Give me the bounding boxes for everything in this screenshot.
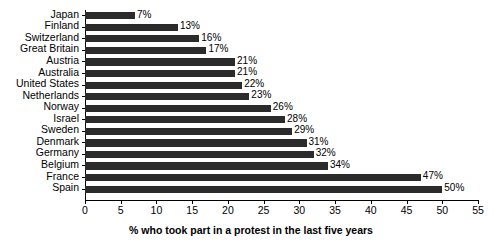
bar-value-label: 29%: [294, 124, 314, 136]
bar: [85, 186, 442, 193]
bar: [85, 24, 178, 31]
bar-value-label: 47%: [423, 170, 443, 182]
bar: [85, 70, 235, 77]
bar: [85, 58, 235, 65]
category-label: Norway: [43, 101, 79, 113]
category-label: Spain: [52, 182, 79, 194]
bar: [85, 93, 249, 100]
bar-value-label: 31%: [309, 136, 329, 148]
bar: [85, 35, 199, 42]
bar-value-label: 28%: [287, 113, 307, 125]
x-axis-tick-label: 30: [284, 204, 314, 217]
x-axis-tick-label: 10: [141, 204, 171, 217]
bar: [85, 116, 285, 123]
x-axis-tick-label: 40: [356, 204, 386, 217]
bar: [85, 139, 307, 146]
chart-row: Belgium34%: [85, 160, 478, 172]
chart-row: France47%: [85, 172, 478, 184]
bar: [85, 47, 206, 54]
chart-row: Germany32%: [85, 149, 478, 161]
category-label: Austria: [46, 55, 79, 67]
bar: [85, 128, 292, 135]
x-axis-tick-label: 35: [320, 204, 350, 217]
chart-row: Israel28%: [85, 114, 478, 126]
x-axis-line: [85, 200, 479, 201]
x-axis-tick-label: 55: [463, 204, 493, 217]
category-label: Belgium: [41, 159, 79, 171]
bar: [85, 82, 242, 89]
x-axis-tick-label: 5: [106, 204, 136, 217]
bar: [85, 12, 135, 19]
bar-value-label: 32%: [316, 147, 336, 159]
x-axis-tick-label: 25: [249, 204, 279, 217]
bar-value-label: 34%: [330, 159, 350, 171]
plot-area: Japan7%Finland13%Switzerland16%Great Bri…: [85, 10, 478, 200]
chart-row: Switzerland16%: [85, 33, 478, 45]
bar-value-label: 13%: [180, 20, 200, 32]
chart-row: Norway26%: [85, 102, 478, 114]
bar-value-label: 23%: [251, 89, 271, 101]
x-axis-tick-label: 45: [392, 204, 422, 217]
bar-value-label: 22%: [244, 78, 264, 90]
x-axis-tick-label: 20: [213, 204, 243, 217]
x-axis-tick-label: 0: [70, 204, 100, 217]
chart-row: Australia21%: [85, 68, 478, 80]
bar: [85, 151, 314, 158]
x-axis-tick-label: 15: [177, 204, 207, 217]
bar-value-label: 21%: [237, 66, 257, 78]
bar-value-label: 16%: [201, 32, 221, 44]
bar-value-label: 50%: [444, 182, 464, 194]
x-axis-tick-label: 50: [427, 204, 457, 217]
chart-row: Austria21%: [85, 56, 478, 68]
bar-value-label: 26%: [273, 101, 293, 113]
chart-row: United States22%: [85, 79, 478, 91]
bar-value-label: 7%: [137, 9, 151, 21]
chart-row: Spain50%: [85, 183, 478, 195]
bar-value-label: 21%: [237, 55, 257, 67]
category-label: United States: [16, 78, 79, 90]
bar: [85, 174, 421, 181]
bar-chart: Japan7%Finland13%Switzerland16%Great Bri…: [0, 0, 502, 246]
chart-row: Japan7%: [85, 10, 478, 22]
chart-row: Great Britain17%: [85, 45, 478, 57]
chart-row: Denmark31%: [85, 137, 478, 149]
chart-row: Finland13%: [85, 22, 478, 34]
chart-row: Sweden29%: [85, 126, 478, 138]
bar: [85, 105, 271, 112]
x-axis-title: % who took part in a protest in the last…: [0, 224, 502, 236]
bar: [85, 162, 328, 169]
bar-value-label: 17%: [208, 43, 228, 55]
